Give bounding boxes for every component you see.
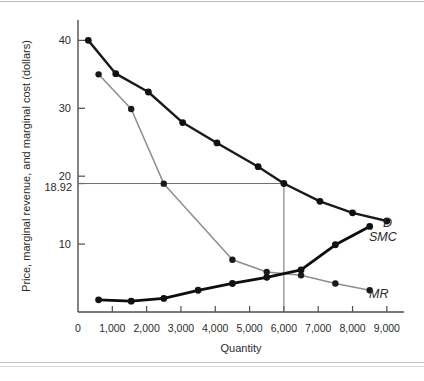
data-point bbox=[332, 241, 339, 248]
x-tick-label: 8,000 bbox=[339, 322, 365, 334]
x-tick-label: 6,000 bbox=[271, 322, 297, 334]
data-point bbox=[161, 180, 167, 186]
y-tick-label: 10 bbox=[59, 238, 71, 250]
data-point bbox=[332, 280, 338, 286]
data-point bbox=[298, 267, 305, 274]
x-tick-label: 5,000 bbox=[236, 322, 262, 334]
marginal-cost-curve bbox=[99, 226, 370, 301]
demand-curve bbox=[88, 40, 387, 221]
data-point bbox=[366, 223, 373, 230]
data-point bbox=[112, 70, 119, 77]
y-axis-title: Price, marginal revenue, and marginal co… bbox=[20, 40, 32, 292]
x-tick-label: 1,000 bbox=[99, 322, 125, 334]
x-tick-label: 9,000 bbox=[374, 322, 400, 334]
demand-points bbox=[85, 37, 390, 224]
data-point bbox=[128, 298, 135, 305]
data-point bbox=[145, 89, 152, 96]
data-point bbox=[95, 71, 101, 77]
data-point bbox=[214, 140, 221, 147]
x-tick-label: 4,000 bbox=[202, 322, 228, 334]
economics-line-chart: 10203040 01,0002,0003,0004,0005,0006,000… bbox=[0, 0, 424, 381]
y-tick-label: 30 bbox=[59, 102, 71, 114]
data-point bbox=[160, 295, 167, 302]
data-point bbox=[85, 37, 92, 44]
marginal-cost-points bbox=[95, 223, 373, 304]
marginal-revenue-series-label: MR bbox=[369, 287, 388, 301]
equilibrium-price-label: 18.92 bbox=[44, 181, 72, 193]
x-tick-marks bbox=[112, 306, 387, 312]
marginal-revenue-points bbox=[95, 71, 372, 293]
x-tick-label: 2,000 bbox=[133, 322, 159, 334]
data-point bbox=[195, 287, 202, 294]
data-point bbox=[317, 198, 324, 205]
data-point bbox=[229, 257, 235, 263]
y-tick-label: 40 bbox=[59, 34, 71, 46]
data-point bbox=[349, 209, 356, 216]
data-point bbox=[179, 119, 186, 126]
data-point bbox=[255, 163, 262, 170]
chart-figure: 10203040 01,0002,0003,0004,0005,0006,000… bbox=[0, 0, 424, 381]
marginal-cost-series-label: SMC bbox=[369, 230, 398, 244]
data-point bbox=[263, 274, 270, 281]
demand-series-label: D bbox=[383, 216, 392, 230]
data-point bbox=[229, 280, 236, 287]
y-tick-marks bbox=[78, 40, 85, 244]
x-tick-label: 3,000 bbox=[168, 322, 194, 334]
x-tick-label: 0 bbox=[75, 322, 81, 334]
data-point bbox=[280, 180, 287, 187]
x-tick-labels: 01,0002,0003,0004,0005,0006,0007,0008,00… bbox=[75, 322, 400, 334]
y-tick-labels: 10203040 bbox=[59, 34, 71, 250]
x-tick-label: 7,000 bbox=[305, 322, 331, 334]
x-axis-title: Quantity bbox=[221, 342, 262, 354]
data-point bbox=[95, 296, 102, 303]
data-point bbox=[128, 106, 134, 112]
